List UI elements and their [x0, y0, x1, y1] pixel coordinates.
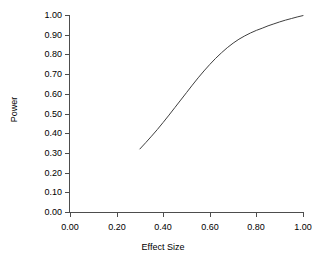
power-curve-line: [140, 16, 303, 149]
power-curve-chart: 0.000.100.200.300.400.500.600.700.800.90…: [0, 0, 326, 266]
y-axis-title: Power: [10, 80, 19, 140]
x-axis-title: Effect Size: [0, 243, 326, 252]
series-layer: [0, 0, 326, 266]
